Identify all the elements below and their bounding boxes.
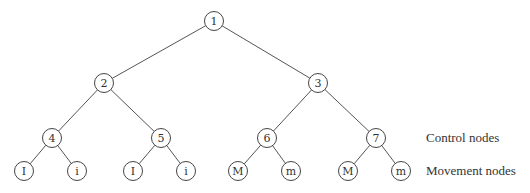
node-label: 4 — [49, 132, 56, 145]
node-label: m — [286, 165, 297, 178]
movement-node: I — [124, 162, 143, 181]
movement-node: M — [339, 162, 358, 181]
node-label: 3 — [315, 77, 322, 90]
movement-node: M — [229, 162, 248, 181]
tree-edge — [112, 26, 205, 79]
node-label: i — [184, 165, 188, 178]
tree-edge — [325, 90, 369, 132]
node-label: 6 — [264, 132, 271, 145]
tree-edge — [273, 146, 286, 164]
tree-edge — [222, 26, 310, 78]
control-node: 3 — [309, 74, 328, 93]
tree-edge — [111, 90, 154, 132]
control-node: 2 — [95, 74, 114, 93]
node-label: I — [131, 165, 135, 178]
tree-edge — [273, 90, 311, 131]
node-label: 5 — [158, 132, 165, 145]
node-label: M — [342, 165, 353, 178]
movement-node: m — [392, 162, 411, 181]
node-label: I — [22, 165, 26, 178]
control-node: 6 — [258, 129, 277, 148]
tree-edge — [139, 145, 155, 164]
movement-node: i — [68, 162, 87, 181]
tree-edge — [30, 145, 46, 164]
control-nodes-label: Control nodes — [426, 130, 499, 146]
tree-nodes: 1234567IiIiMmMm — [15, 12, 411, 181]
node-label: m — [396, 165, 407, 178]
tree-edge — [354, 145, 370, 164]
tree-edge — [58, 146, 72, 164]
control-node: 4 — [43, 129, 62, 148]
control-node: 5 — [152, 129, 171, 148]
node-label: 7 — [373, 132, 380, 145]
control-node: 1 — [205, 12, 224, 31]
tree-edge — [167, 146, 181, 164]
node-label: 2 — [101, 77, 108, 90]
control-node: 7 — [367, 129, 386, 148]
tree-edge — [244, 145, 260, 164]
movement-node: m — [282, 162, 301, 181]
tree-edge — [382, 146, 396, 164]
tree-edges — [30, 26, 395, 164]
node-label: 1 — [211, 15, 218, 28]
movement-node: i — [177, 162, 196, 181]
tree-edge — [59, 90, 98, 131]
movement-node: I — [15, 162, 34, 181]
node-label: i — [75, 165, 79, 178]
movement-nodes-label: Movement nodes — [426, 163, 516, 179]
node-label: M — [232, 165, 243, 178]
